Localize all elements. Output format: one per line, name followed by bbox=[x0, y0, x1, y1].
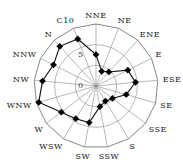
diamond-marker-E bbox=[124, 67, 131, 74]
tick-label-0: 0 bbox=[78, 81, 83, 90]
diamond-marker-NW bbox=[39, 78, 46, 85]
axis-label-WNW: WNW bbox=[7, 101, 32, 110]
axis-label-SE: SE bbox=[160, 101, 172, 110]
diamond-marker-WSW bbox=[72, 115, 79, 122]
axis-label-WSW: WSW bbox=[39, 142, 63, 151]
spoke-ENE bbox=[96, 40, 138, 86]
series-line bbox=[39, 39, 136, 123]
axis-label-NW: NW bbox=[13, 75, 30, 84]
diamond-marker-NNW bbox=[50, 61, 57, 68]
spoke-W bbox=[47, 86, 96, 123]
spoke-SSE bbox=[96, 86, 145, 123]
axis-label-E: E bbox=[156, 50, 162, 59]
axis-label-NNW: NNW bbox=[13, 50, 37, 59]
tick-label-5: 5 bbox=[78, 50, 83, 59]
axis-label-NNE: NNE bbox=[85, 11, 106, 20]
axis-label-N: N bbox=[45, 30, 53, 39]
axis-label-ENE: ENE bbox=[140, 30, 160, 39]
axis-label-ESE: ESE bbox=[163, 75, 182, 84]
axis-label-W: W bbox=[35, 125, 44, 134]
axis-label-S: S bbox=[129, 142, 135, 151]
axis-label-NE: NE bbox=[118, 16, 132, 25]
axis-label-SSE: SSE bbox=[149, 125, 167, 134]
wind-rose-radar-chart: NNENEENEEESESESSESSSWSWWSWWWNWNWNNWNC10 … bbox=[0, 0, 183, 165]
diamond-marker-SW bbox=[86, 119, 93, 126]
axis-label-SSW: SSW bbox=[99, 152, 120, 161]
diamond-marker-NE bbox=[98, 68, 105, 75]
axis-label-SW: SW bbox=[76, 152, 91, 161]
diamond-marker-W bbox=[58, 109, 65, 116]
axis-label-C10: C10 bbox=[57, 16, 75, 25]
data-series bbox=[35, 36, 139, 126]
